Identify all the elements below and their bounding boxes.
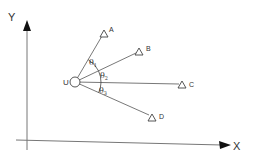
theta1-sub: 1 [94,62,97,68]
theta2-sub: 2 [105,75,108,81]
x-axis-label: X [233,140,241,152]
node-u-label: U [63,78,69,87]
triangle-d-icon [148,114,156,121]
theta1-label: θ1 [89,58,97,68]
diagram-canvas: Y X U A B C D [0,0,259,160]
target-c-label: C [189,81,194,88]
triangle-c-icon [178,81,186,88]
triangle-b-icon [135,48,143,55]
node-u-icon [70,77,80,87]
ray-c [75,82,179,84]
target-d-label: D [159,113,164,120]
diagram-svg: Y X U A B C D [0,0,259,160]
y-axis-arrow-icon [23,20,31,31]
y-axis-label: Y [8,11,16,23]
ray-d [75,82,149,115]
triangle-a-icon [100,30,108,37]
target-b-label: B [146,45,151,52]
theta3-label: θ3 [99,86,107,96]
target-markers [100,30,186,121]
target-a-label: A [109,26,114,33]
x-axis-arrow-icon [219,141,231,149]
rays [75,36,179,115]
theta3-sub: 3 [104,90,107,96]
theta2-label: θ2 [100,71,108,81]
x-axis [16,140,222,145]
